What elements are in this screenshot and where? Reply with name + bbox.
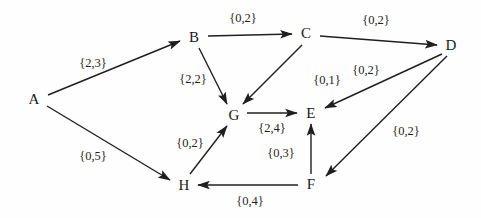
edge-c-to-d — [320, 36, 437, 45]
edge-label-g-e: {2,4} — [258, 121, 286, 136]
edge-label-h-g: {0,2} — [176, 136, 204, 151]
node-h[interactable]: H — [178, 177, 189, 194]
node-a[interactable]: A — [28, 91, 39, 108]
edge-label-b-g: {2,2} — [179, 72, 207, 87]
edge-a-to-h — [47, 106, 170, 180]
edge-label-d-f: {0,2} — [392, 124, 420, 139]
edge-d-to-e — [325, 54, 442, 108]
graph-diagram: ABCDEFGH {2,3}{0,5}{0,2}{2,2}{0,2}{0,1}{… — [0, 0, 481, 218]
node-f[interactable]: F — [307, 176, 316, 193]
edge-label-b-c: {0,2} — [229, 11, 257, 26]
edge-label-c-d: {0,2} — [362, 13, 390, 28]
edge-group — [47, 34, 447, 185]
edge-label-c-g: {0,1} — [313, 73, 341, 88]
edge-d-to-f — [326, 56, 447, 176]
edge-label-f-h: {0,4} — [236, 194, 264, 209]
graph-edges-canvas — [0, 0, 481, 218]
edge-b-to-c — [208, 34, 292, 36]
node-g[interactable]: G — [228, 107, 239, 124]
node-c[interactable]: C — [301, 25, 311, 42]
edge-label-a-h: {0,5} — [79, 149, 107, 164]
edge-label-d-e: {0,2} — [352, 63, 380, 78]
edge-c-to-g — [243, 45, 302, 104]
edge-a-to-b — [48, 41, 180, 95]
node-b[interactable]: B — [189, 29, 199, 46]
node-d[interactable]: D — [445, 37, 456, 54]
edge-label-f-e: {0,3} — [267, 146, 295, 161]
node-e[interactable]: E — [306, 105, 315, 122]
edge-label-a-b: {2,3} — [79, 56, 107, 71]
